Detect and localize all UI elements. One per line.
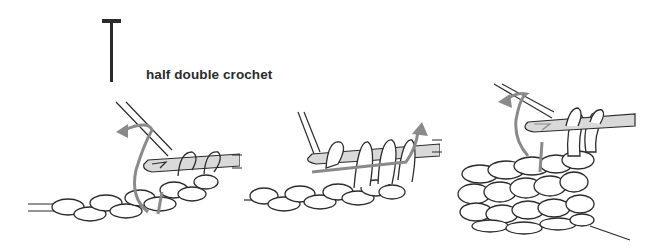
hdc-symbol bbox=[100, 18, 124, 84]
step-2-illustration bbox=[230, 100, 440, 250]
step-3-illustration bbox=[430, 80, 659, 250]
stitch-name-caption: half double crochet bbox=[146, 67, 272, 82]
step-1-illustration bbox=[20, 90, 240, 250]
